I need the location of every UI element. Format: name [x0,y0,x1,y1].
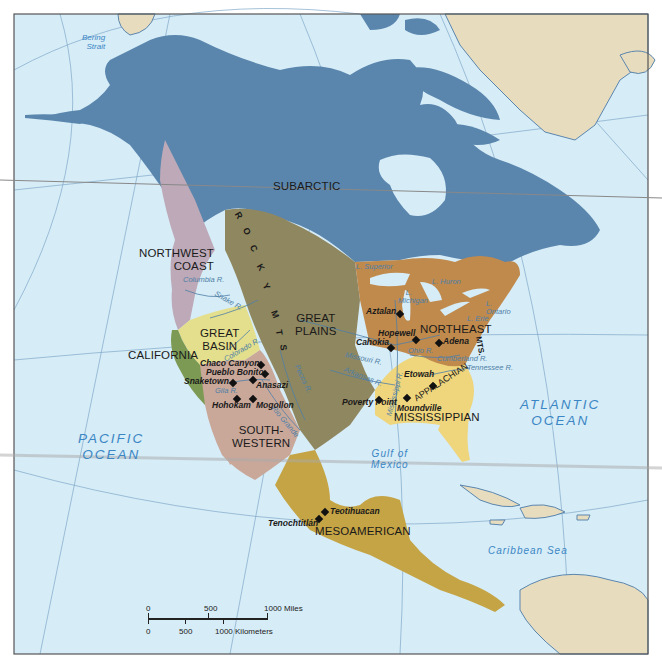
label-line: PACIFIC [78,432,144,446]
label-line: PLAINS [295,326,337,338]
label-cahokia: Cahokia [356,338,389,347]
label-bering-strait: Bering Strait [82,34,105,51]
label-rocky-mts-s: S [278,344,287,351]
label-southwestern: SOUTH- WESTERN [232,425,290,449]
label-subarctic: SUBARCTIC [273,181,340,193]
label-line: NORTHWEST [139,248,214,260]
label-moundville: Moundville [397,404,441,413]
scale-km-1000: 1000 Kilometers [215,627,273,636]
label-line: Bering [82,34,105,42]
label-line: COAST [139,261,214,273]
label-great-plains: GREAT PLAINS [295,313,337,337]
label-lake-huron: L. Huron [432,278,461,286]
label-aztalan: Aztalan [366,307,396,316]
label-line: OCEAN [78,448,144,462]
label-atlantic-ocean: ATLANTIC OCEAN [520,398,600,427]
label-gulf-of-mexico: Gulf of Mexico [371,449,409,470]
scale-tick [148,613,149,624]
label-gila-river: Gila R. [215,387,238,395]
label-line: Strait [82,43,105,51]
label-mogollon: Mogollon [256,401,294,410]
scale-line [148,618,268,620]
label-line: OCEAN [520,414,600,428]
label-teotihuacan: Teotihuacan [330,507,380,516]
scale-tick [185,619,186,624]
label-ohio-river: Ohio R. [408,347,433,355]
label-pacific-ocean: PACIFIC OCEAN [78,432,144,461]
scale-tick [223,619,224,624]
label-snaketown: Snaketown [184,377,229,386]
scale-miles-1000: 1000 Miles [264,604,303,613]
label-line: ATLANTIC [520,398,600,412]
scale-tick [208,613,209,618]
label-adena: Adena [443,337,469,346]
label-line: Mexico [371,460,409,470]
label-rocky-mts-t: T [274,329,284,336]
label-northwest-coast: NORTHWEST COAST [139,248,214,272]
label-lake-superior: L. Superior [356,263,393,271]
scale-miles-0: 0 [146,604,150,613]
label-california: CALIFORNIA [128,350,198,362]
label-caribbean-sea: Caribbean Sea [488,546,568,556]
label-anasazi: Anasazi [256,381,288,390]
label-hohokam: Hohokam [212,401,251,410]
label-etowah: Etowah [404,370,434,379]
scale-km-0: 0 [146,627,150,636]
scale-miles-500: 500 [204,604,217,613]
scale-km-500: 500 [179,627,192,636]
label-lake-ontario: L. Ontario [486,300,512,317]
label-poverty-point: Poverty Point [342,398,397,407]
label-line: Poverty Point [342,398,397,407]
scale-bar: 0 500 1000 Miles 0 500 1000 Kilometers [146,604,306,640]
label-line: Gulf of [371,449,409,459]
scale-tick [267,613,268,618]
label-lake-erie: L. Erie [467,315,489,323]
label-line: WESTERN [232,438,290,450]
label-tenochtitlan: Tenochtitlán [268,519,318,528]
label-columbia-river: Columbia R. [183,276,224,284]
label-line: GREAT [200,328,239,340]
label-northeast: NORTHEAST [420,324,492,336]
label-mesoamerican: MESOAMERICAN [315,526,411,538]
label-line: SOUTH- [232,425,290,437]
label-tennessee-river: Tennessee R. [467,364,513,372]
label-line: GREAT [295,313,337,325]
label-mississippian: MISSISSIPPIAN [394,412,480,424]
label-lake-michigan: L. Michigan [398,289,420,306]
